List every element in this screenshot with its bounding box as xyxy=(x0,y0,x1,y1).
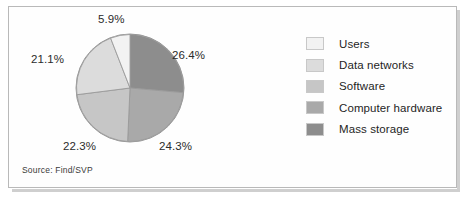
slice-label-software: 22.3% xyxy=(63,140,96,152)
pie-slice xyxy=(130,35,183,93)
chart-legend: UsersData networksSoftwareComputer hardw… xyxy=(306,33,456,140)
pie-slice-group xyxy=(76,35,183,142)
legend-item: Data networks xyxy=(306,54,456,75)
pie-svg xyxy=(74,32,186,144)
pie-slice xyxy=(128,88,184,142)
legend-swatch-icon xyxy=(306,37,324,50)
slice-label-users: 5.9% xyxy=(98,13,125,25)
slice-label-data-networks: 21.1% xyxy=(31,53,64,65)
source-note: Source: Find/SVP xyxy=(22,165,93,175)
legend-item-label: Data networks xyxy=(339,59,414,71)
slice-label-computer-hardware: 24.3% xyxy=(159,140,192,152)
legend-swatch-icon xyxy=(306,123,324,136)
legend-item-label: Mass storage xyxy=(339,123,409,135)
figure-shadow-bottom xyxy=(12,189,460,192)
legend-swatch-icon xyxy=(306,80,324,93)
slice-label-mass-storage: 26.4% xyxy=(172,49,205,61)
legend-item: Software xyxy=(306,76,456,97)
legend-item: Computer hardware xyxy=(306,97,456,118)
legend-swatch-icon xyxy=(306,59,324,72)
legend-item-label: Software xyxy=(339,80,385,92)
legend-item: Users xyxy=(306,33,456,54)
legend-item-label: Users xyxy=(339,38,370,50)
legend-item-label: Computer hardware xyxy=(339,102,442,114)
legend-item: Mass storage xyxy=(306,119,456,140)
legend-swatch-icon xyxy=(306,101,324,114)
pie-slice xyxy=(77,88,130,141)
pie-chart-figure: 5.9% 26.4% 24.3% 22.3% 21.1% UsersData n… xyxy=(0,0,467,204)
figure-shadow-right xyxy=(457,10,460,192)
pie-plot-area xyxy=(74,32,186,144)
